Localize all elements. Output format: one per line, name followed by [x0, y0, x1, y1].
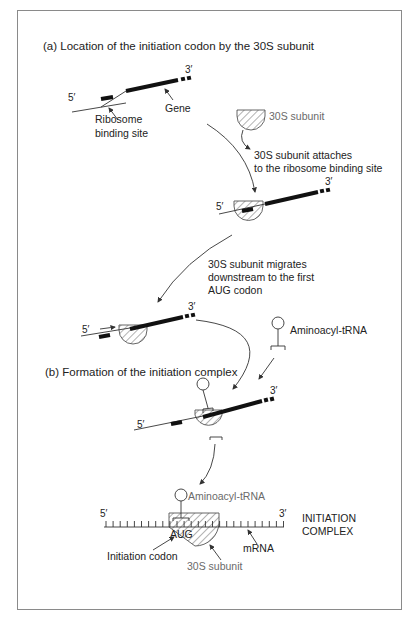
five-prime-label: 5′: [137, 419, 145, 430]
released-fragment: [210, 437, 222, 440]
30s-subunit-shape: [237, 110, 265, 130]
migrate-caption-line1: 30S subunit migrates: [208, 258, 307, 270]
complex-label-line1: INITIATION: [302, 512, 356, 524]
attach-arrow: [242, 130, 250, 149]
five-prime-label: 5′: [216, 201, 224, 212]
complex-five-prime: 5′: [100, 508, 108, 519]
gene-pointer-arrow: [165, 89, 173, 100]
trna-amino-acid-circle: [175, 489, 187, 501]
gene-bar: [265, 192, 318, 204]
migration-arrow: [100, 327, 115, 329]
trna-amino-acid-circle: [197, 378, 209, 390]
initiation-codon-label: Initiation codon: [107, 550, 178, 562]
ribosome-binding-site-bar: [171, 422, 182, 424]
five-prime-label: 5′: [68, 92, 76, 103]
rbs-label-line2: binding site: [95, 127, 148, 139]
initiation-codon-arrow: [153, 537, 174, 550]
mrna-step2: 5′ 3′: [216, 176, 333, 221]
section-b-title: (b) Formation of the initiation complex: [45, 366, 238, 378]
trna-amino-acid-circle: [272, 317, 284, 329]
five-prime-label: 5′: [82, 324, 90, 335]
three-prime-label: 3′: [188, 301, 196, 312]
mrna-strand: [72, 103, 126, 112]
mrna-step4: 5′ 3′: [134, 378, 278, 440]
transition-arrow-1: [207, 124, 255, 192]
free-aminoacyl-trna: Aminoacyl-tRNA: [271, 317, 367, 350]
three-prime-label: 3′: [185, 64, 193, 75]
migrate-caption-line2: downstream to the first: [208, 271, 314, 283]
complex-three-prime: 3′: [279, 508, 287, 519]
migrate-caption-line3: AUG codon: [208, 284, 262, 296]
complex-label-line2: COMPLEX: [302, 525, 353, 537]
free-30s-subunit: 30S subunit: [237, 110, 325, 149]
three-prime-label: 3′: [325, 176, 333, 187]
initiation-diagram: (a) Location of the initiation codon by …: [0, 0, 417, 621]
trna-arrow: [259, 358, 274, 379]
complex-subunit-label: 30S subunit: [187, 560, 243, 572]
trna-label: Aminoacyl-tRNA: [290, 324, 367, 336]
aug-codon-text: AUG: [170, 528, 193, 540]
ribosome-binding-site-bar: [101, 97, 113, 99]
ribosome-binding-site-bar: [99, 335, 110, 337]
subunit-label: 30S subunit: [269, 110, 325, 122]
complex-trna-label: Aminoacyl-tRNA: [188, 490, 265, 502]
gene-bar: [126, 80, 178, 91]
rbs-label-line1: Ribosome: [95, 113, 142, 125]
gene-bar: [203, 401, 262, 417]
initiation-complex: Aminoacyl-tRNA 5′ 3′ AUG Initiation codo…: [100, 489, 356, 572]
gene-label: Gene: [165, 102, 191, 114]
transition-arrow-4: [200, 444, 215, 484]
attach-caption-line1: 30S subunit attaches: [254, 149, 352, 161]
mrna-step1: 5′ 3′ Gene Ribosome binding site: [68, 64, 193, 139]
ribosome-binding-site-bar: [242, 209, 253, 211]
three-prime-label: 3′: [270, 385, 278, 396]
mrna-step3: 5′ 3′: [81, 301, 196, 344]
section-a-title: (a) Location of the initiation codon by …: [43, 40, 315, 52]
gene-bar: [130, 317, 183, 329]
mrna-label: mRNA: [243, 542, 274, 554]
subunit-pointer-arrow: [210, 545, 221, 560]
attach-caption-line2: to the ribosome binding site: [254, 162, 383, 174]
